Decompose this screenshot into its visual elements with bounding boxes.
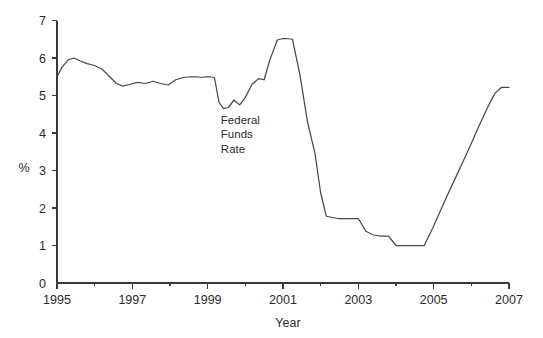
y-tick-label: 3 — [39, 164, 46, 178]
data-series-group — [57, 39, 509, 246]
y-tick-label: 6 — [39, 52, 46, 66]
x-tick-label: 1999 — [194, 293, 222, 307]
y-tick-label: 4 — [39, 127, 46, 141]
y-tick-label: 7 — [39, 14, 46, 28]
y-tick-label: 0 — [39, 277, 46, 291]
y-axis: 01234567 — [39, 14, 57, 291]
y-tick-label: 5 — [39, 89, 46, 103]
x-axis-title: Year — [275, 316, 300, 330]
x-tick-label: 2007 — [495, 293, 523, 307]
chart-figure: 01234567 1995199719992001200320052007 Fe… — [0, 0, 543, 338]
series-annotation-line: Funds — [221, 128, 253, 140]
annotation-group: FederalFundsRate — [221, 114, 260, 155]
y-tick-label: 2 — [39, 202, 46, 216]
x-tick-label: 2001 — [269, 293, 297, 307]
x-tick-label: 1995 — [43, 293, 71, 307]
series-annotation-line: Federal — [221, 114, 260, 126]
chart-canvas: 01234567 1995199719992001200320052007 Fe… — [0, 0, 543, 338]
series-annotation-line: Rate — [221, 143, 245, 155]
x-axis: 1995199719992001200320052007 — [43, 283, 523, 307]
y-tick-label: 1 — [39, 239, 46, 253]
x-tick-label: 1997 — [118, 293, 146, 307]
x-tick-label: 2005 — [420, 293, 448, 307]
x-tick-label: 2003 — [344, 293, 372, 307]
y-axis-title: % — [18, 161, 29, 175]
series-line — [57, 39, 509, 246]
